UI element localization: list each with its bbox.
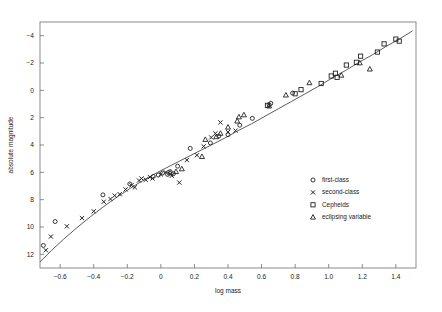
x-tick-label: −0.6 (54, 273, 67, 280)
x-axis-label: log mass (215, 287, 242, 295)
series-first-class (41, 91, 294, 247)
data-point (185, 158, 189, 162)
x-axis-ticks: −0.6−0.4−0.200.20.40.60.81.01.21.4 (54, 264, 401, 280)
data-point (139, 176, 143, 180)
data-point (44, 248, 48, 252)
data-point (218, 120, 222, 124)
legend-label: first-class (322, 176, 349, 183)
data-point (101, 193, 105, 197)
data-point (177, 180, 181, 184)
data-point (195, 153, 199, 157)
data-point (299, 88, 303, 92)
data-point (209, 135, 213, 139)
x-tick-label: −0.4 (87, 273, 100, 280)
data-point (108, 197, 112, 201)
legend-label: Cepheids (322, 201, 349, 209)
data-point (238, 123, 242, 127)
legend-marker-square (311, 203, 315, 207)
y-axis-label: absolute magnitude (7, 116, 15, 173)
data-point (53, 220, 57, 224)
data-point (208, 141, 212, 145)
data-point (250, 116, 254, 120)
legend-marker-circle (311, 178, 315, 182)
scatter-plot-canvas: −0.6−0.4−0.200.20.40.60.81.01.21.4 −4−20… (0, 0, 442, 312)
data-point (226, 125, 231, 130)
data-point (102, 200, 106, 204)
data-point (226, 130, 230, 134)
data-point (283, 92, 288, 97)
data-point (113, 193, 117, 197)
y-tick-label: 2 (30, 114, 34, 121)
data-point (236, 114, 241, 119)
legend-marker-triangle (311, 215, 316, 220)
y-tick-label: 8 (30, 196, 34, 203)
x-tick-label: 1.4 (391, 273, 400, 280)
series-eclipsing-variable (168, 60, 373, 175)
data-point (359, 54, 363, 58)
x-tick-label: 0.6 (257, 273, 266, 280)
x-tick-label: 1.0 (324, 273, 333, 280)
data-point (382, 42, 386, 46)
fit-curve (40, 31, 413, 262)
legend-marker-cross (311, 190, 315, 194)
y-tick-label: 0 (30, 87, 34, 94)
data-point (199, 154, 204, 159)
legend: first-classsecond-classCepheidseclipsing… (311, 176, 372, 221)
data-point (176, 164, 180, 168)
fit-curve-path (40, 31, 413, 262)
x-tick-label: 0.2 (190, 273, 199, 280)
data-point (80, 216, 84, 220)
y-tick-label: 12 (27, 251, 35, 258)
series-second-class (44, 120, 238, 252)
data-point (202, 144, 206, 148)
data-point (307, 80, 312, 85)
data-point (41, 243, 45, 247)
data-point (173, 169, 178, 174)
x-tick-label: 0.4 (223, 273, 232, 280)
data-point (333, 71, 337, 75)
legend-label: second-class (322, 188, 359, 195)
mass-luminosity-figure: −0.6−0.4−0.200.20.40.60.81.01.21.4 −4−20… (0, 0, 442, 312)
data-point (92, 209, 96, 213)
data-point (241, 112, 246, 117)
data-point (49, 234, 53, 238)
x-tick-label: 1.2 (358, 273, 367, 280)
data-point (344, 63, 348, 67)
data-point (203, 137, 208, 142)
plot-frame (40, 22, 416, 268)
data-point (65, 224, 69, 228)
x-tick-label: 0.8 (291, 273, 300, 280)
data-point (367, 67, 372, 72)
data-point (188, 146, 192, 150)
x-tick-label: −0.2 (121, 273, 134, 280)
y-tick-label: 6 (30, 169, 34, 176)
y-tick-label: 4 (30, 141, 34, 148)
y-axis-ticks: −4−2024681012 (26, 32, 44, 258)
y-tick-label: −4 (26, 32, 34, 39)
legend-label: eclipsing variable (322, 213, 371, 221)
y-tick-label: 10 (27, 223, 35, 230)
y-tick-label: −2 (26, 59, 34, 66)
data-point (179, 166, 184, 171)
x-tick-label: 0 (159, 273, 163, 280)
